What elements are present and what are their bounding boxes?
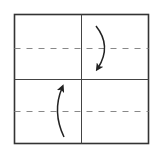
fold-diagram [0, 0, 157, 158]
